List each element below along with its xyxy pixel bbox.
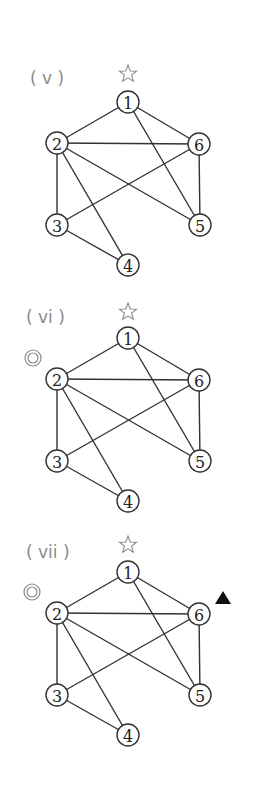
node-1: 1 <box>117 327 139 349</box>
star-icon <box>119 303 136 319</box>
edge-1-6 <box>128 102 199 144</box>
node-1: 1 <box>117 91 139 113</box>
panel-label: ( vi ) <box>26 307 65 327</box>
edge-6-5 <box>199 380 200 461</box>
triangle-icon <box>215 591 231 604</box>
panel-label: ( v ) <box>30 68 64 88</box>
edge-2-6 <box>57 143 199 144</box>
node-label: 5 <box>195 453 205 472</box>
graph-panel-7: ( vii )123456 <box>24 536 231 746</box>
node-4: 4 <box>117 724 139 746</box>
node-label: 3 <box>52 453 62 472</box>
node-label: 1 <box>123 330 133 349</box>
edge-6-5 <box>199 614 200 695</box>
node-3: 3 <box>46 214 68 236</box>
node-label: 1 <box>123 94 133 113</box>
node-label: 5 <box>195 687 205 706</box>
node-label: 2 <box>52 605 62 624</box>
edge-1-2 <box>57 572 128 613</box>
edge-2-6 <box>57 613 199 614</box>
node-2: 2 <box>46 368 68 390</box>
node-label: 1 <box>123 564 133 583</box>
edge-1-2 <box>57 338 128 379</box>
double-circle-icon <box>24 584 40 600</box>
node-5: 5 <box>189 450 211 472</box>
node-label: 6 <box>194 372 204 391</box>
node-label: 4 <box>123 257 133 276</box>
node-label: 3 <box>52 687 62 706</box>
edge-6-5 <box>199 144 200 225</box>
edge-3-4 <box>57 225 128 265</box>
node-label: 5 <box>195 217 205 236</box>
edge-1-6 <box>128 572 199 614</box>
edge-2-6 <box>57 379 199 380</box>
node-label: 4 <box>123 493 133 512</box>
node-2: 2 <box>46 602 68 624</box>
node-label: 3 <box>52 217 62 236</box>
graph-panel-6: ( vi )123456 <box>25 303 211 512</box>
node-4: 4 <box>117 490 139 512</box>
node-4: 4 <box>117 254 139 276</box>
node-1: 1 <box>117 561 139 583</box>
node-label: 6 <box>194 606 204 625</box>
star-icon <box>119 65 136 81</box>
graph-panel-5: ( v )123456 <box>30 65 211 276</box>
edge-3-4 <box>57 695 128 735</box>
node-label: 2 <box>52 371 62 390</box>
node-label: 4 <box>123 727 133 746</box>
edge-1-6 <box>128 338 199 380</box>
node-6: 6 <box>188 603 210 625</box>
node-2: 2 <box>46 132 68 154</box>
node-6: 6 <box>188 369 210 391</box>
node-label: 6 <box>194 136 204 155</box>
panel-label: ( vii ) <box>26 542 70 562</box>
node-5: 5 <box>189 214 211 236</box>
node-3: 3 <box>46 450 68 472</box>
graph-figure: ( v )123456( vi )123456( vii )123456 <box>0 0 255 786</box>
edge-1-2 <box>57 102 128 143</box>
edge-3-4 <box>57 461 128 501</box>
node-5: 5 <box>189 684 211 706</box>
node-6: 6 <box>188 133 210 155</box>
node-3: 3 <box>46 684 68 706</box>
star-icon <box>119 536 136 552</box>
node-label: 2 <box>52 135 62 154</box>
double-circle-icon <box>25 350 41 366</box>
